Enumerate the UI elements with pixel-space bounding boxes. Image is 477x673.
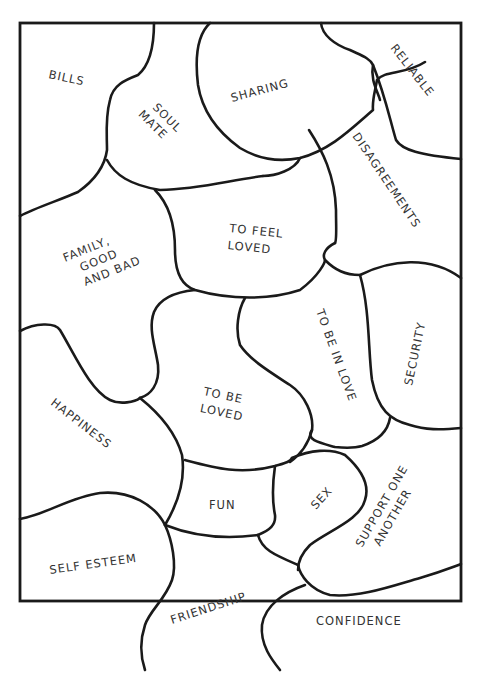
- label-happiness: HAPPINESS: [48, 395, 114, 451]
- label-family-good-and-bad: FAMILY, GOOD AND BAD: [61, 225, 143, 292]
- label-to-be-loved: TO BE LOVED: [198, 384, 249, 424]
- label-reliable: RELIABLE: [388, 41, 438, 99]
- label-fun: FUN: [209, 498, 236, 512]
- label-bills: BILLS: [47, 67, 86, 88]
- label-sharing: SHARING: [229, 76, 290, 105]
- label-friendship: FRIENDSHIP: [169, 589, 248, 627]
- piece-borders: [20, 23, 461, 670]
- label-to-feel-loved: TO FEEL LOVED: [226, 221, 289, 258]
- label-security: SECURITY: [401, 321, 428, 387]
- label-self-esteem: SELF ESTEEM: [48, 551, 137, 577]
- label-to-be-in-love: TO BE IN LOVE: [313, 306, 360, 403]
- label-soul-mate: SOUL MATE: [136, 97, 188, 149]
- label-confidence: CONFIDENCE: [316, 614, 402, 628]
- puzzle-diagram: BILLS SOUL MATE SHARING RELIABLE DISAGRE…: [0, 0, 477, 673]
- label-sex: SEX: [308, 484, 335, 512]
- label-disagreements: DISAGREEMENTS: [350, 130, 424, 231]
- label-support-one-another: SUPPORT ONE ANOTHER: [352, 458, 426, 557]
